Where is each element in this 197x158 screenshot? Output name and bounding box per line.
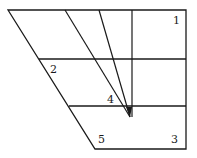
trapezoid-outline bbox=[8, 10, 186, 149]
label-4: 4 bbox=[107, 93, 114, 106]
converging-line-middle bbox=[99, 10, 130, 117]
label-1: 1 bbox=[173, 14, 180, 27]
label-2: 2 bbox=[50, 63, 57, 76]
converging-line-left bbox=[65, 10, 130, 117]
label-3: 3 bbox=[171, 133, 178, 146]
geometry-diagram: 1 2 4 5 3 bbox=[0, 0, 197, 158]
label-5: 5 bbox=[98, 133, 105, 146]
diagram-svg: 1 2 4 5 3 bbox=[0, 0, 197, 158]
